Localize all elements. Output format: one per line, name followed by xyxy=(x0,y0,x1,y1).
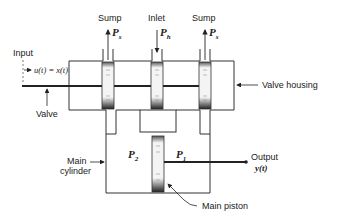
middle-block xyxy=(140,110,176,132)
main-piston-label: Main piston xyxy=(202,201,248,211)
sump-left-label: Sump xyxy=(98,13,122,23)
valve-housing-label: Valve housing xyxy=(262,80,318,90)
valve-label: Valve xyxy=(36,109,58,119)
sump-right-label: Sump xyxy=(192,13,216,23)
sump-left-pressure: Ps xyxy=(112,26,122,41)
main-cylinder-label-line1: Main xyxy=(67,156,87,166)
main-piston-pointer-arrow-icon xyxy=(168,184,197,206)
inlet-pressure: Ph xyxy=(160,26,171,41)
servo-diagram: Sump Ps Inlet Ph Sump Ps Input u(t) = x(… xyxy=(0,0,343,219)
sump-right-pressure: Ps xyxy=(209,26,219,41)
chamber-right-pressure: P1 xyxy=(176,148,186,163)
spool-left xyxy=(102,62,114,109)
input-signal-label: u(t) = x(t) xyxy=(34,65,68,75)
cylinder-channels xyxy=(106,110,210,134)
output-signal-label: y(t) xyxy=(254,163,268,173)
spool-middle xyxy=(151,62,163,109)
spool-right xyxy=(199,62,211,109)
input-label: Input xyxy=(13,48,34,58)
output-rod-end xyxy=(244,160,248,164)
output-label: Output xyxy=(251,152,279,162)
main-cylinder-label-line2: cylinder xyxy=(60,166,91,176)
chamber-left-pressure: P2 xyxy=(128,148,139,163)
main-piston xyxy=(152,136,164,192)
inlet-label: Inlet xyxy=(148,13,166,23)
